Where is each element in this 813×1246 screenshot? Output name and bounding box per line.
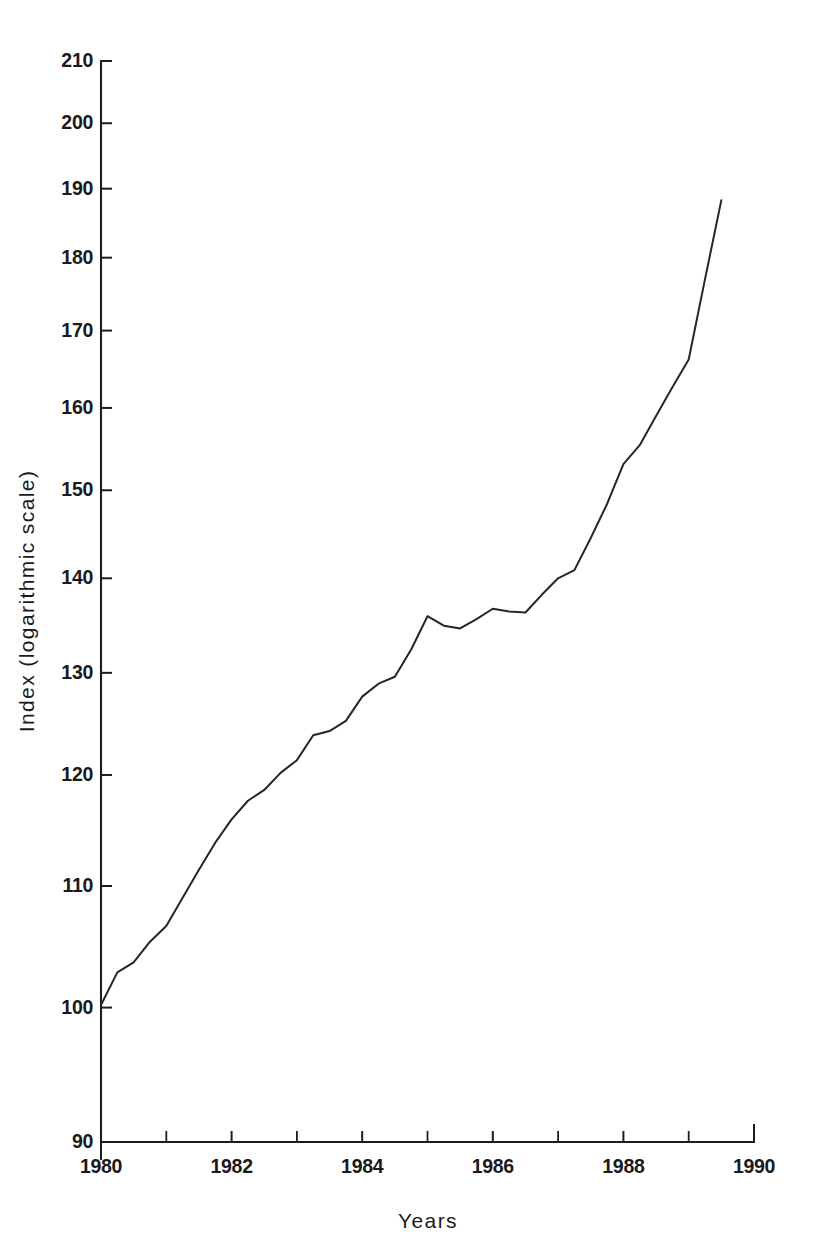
y-axis-tick-label: 90 (72, 1130, 94, 1152)
line-chart-plot: 90100110120130140150160170180190200210 1… (0, 0, 813, 1246)
x-axis-title: Years (398, 1209, 458, 1232)
y-axis: 90100110120130140150160170180190200210 (61, 49, 112, 1152)
chart-figure: 90100110120130140150160170180190200210 1… (0, 0, 813, 1246)
y-axis-tick-label: 110 (62, 874, 93, 896)
y-axis-tick-label: 100 (61, 996, 93, 1018)
x-axis-tick-label: 1988 (602, 1155, 645, 1177)
y-axis-title: Index (logarithmic scale) (15, 470, 38, 733)
y-axis-tick-label: 210 (61, 49, 93, 71)
y-axis-tick-label: 140 (61, 566, 93, 588)
x-axis-tick-label: 1982 (211, 1155, 254, 1177)
x-axis: 198019821984198619881990 (80, 1124, 776, 1177)
data-series-group (101, 200, 721, 1005)
y-axis-tick-label: 150 (61, 478, 93, 500)
y-axis-tick-label: 180 (61, 246, 93, 268)
x-axis-tick-label: 1986 (472, 1155, 515, 1177)
y-axis-tick-label: 120 (61, 763, 93, 785)
x-axis-tick-label: 1990 (733, 1155, 776, 1177)
y-axis-tick-label: 170 (61, 319, 93, 341)
y-axis-tick-label: 130 (61, 661, 93, 683)
y-axis-tick-label: 200 (61, 111, 93, 133)
y-axis-tick-label: 190 (61, 177, 93, 199)
data-series-line (101, 200, 721, 1005)
x-axis-tick-label: 1984 (341, 1155, 384, 1177)
y-axis-tick-label: 160 (61, 396, 93, 418)
